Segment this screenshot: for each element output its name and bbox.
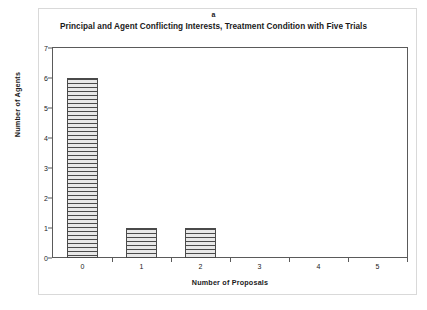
bar-1 (126, 228, 157, 258)
x-tick-label: 2 (186, 263, 216, 270)
x-tick-label: 4 (304, 263, 334, 270)
y-tick-label: 6 (28, 75, 48, 82)
y-tick-mark (48, 78, 52, 79)
y-tick-label: 0 (28, 255, 48, 262)
x-tick-mark (289, 258, 290, 262)
x-tick-label: 1 (127, 263, 157, 270)
x-tick-mark (407, 258, 408, 262)
y-tick-label: 1 (28, 225, 48, 232)
x-tick-mark (171, 258, 172, 262)
y-tick-label: 4 (28, 135, 48, 142)
x-tick-label: 5 (363, 263, 393, 270)
y-tick-label: 2 (28, 195, 48, 202)
y-tick-label: 3 (28, 165, 48, 172)
x-axis-label: Number of Proposals (52, 278, 408, 287)
chart-title: Principal and Agent Conflicting Interest… (0, 22, 427, 31)
y-tick-mark (48, 258, 52, 259)
y-tick-mark (48, 138, 52, 139)
panel-letter: a (0, 11, 427, 18)
figure-container: a Principal and Agent Conflicting Intere… (0, 0, 427, 310)
y-tick-mark (48, 108, 52, 109)
x-tick-mark (230, 258, 231, 262)
y-axis-tick-labels: 01234567 (26, 47, 48, 258)
y-tick-mark (48, 228, 52, 229)
x-tick-mark (112, 258, 113, 262)
x-tick-label: 0 (68, 263, 98, 270)
y-tick-mark (48, 198, 52, 199)
y-tick-label: 7 (28, 45, 48, 52)
plot-data-area (53, 48, 407, 258)
x-tick-mark (348, 258, 349, 262)
x-tick-label: 3 (245, 263, 275, 270)
bar-2 (185, 228, 216, 258)
y-tick-label: 5 (28, 105, 48, 112)
y-axis-label: Number of Agents (13, 50, 22, 160)
y-tick-mark (48, 48, 52, 49)
y-tick-mark (48, 168, 52, 169)
bar-0 (67, 78, 98, 258)
